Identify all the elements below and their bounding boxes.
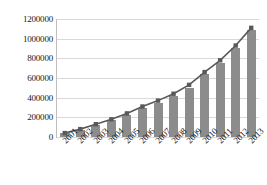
y-axis-tick-label: 400000 [1, 94, 53, 103]
y-axis-tick-label: 200000 [1, 113, 53, 122]
line-marker [125, 111, 129, 115]
line-marker [140, 104, 144, 108]
y-axis-tick-label: 800000 [1, 54, 53, 63]
line-marker [249, 26, 253, 30]
line-marker [171, 92, 175, 96]
trend-line [65, 28, 251, 133]
y-axis-tick-label: 600000 [1, 74, 53, 83]
y-axis-tick-label: 0 [1, 133, 53, 142]
line-marker [233, 43, 237, 47]
line-marker [156, 98, 160, 102]
y-axis-tick-labels: 020000040000060000080000010000001200000 [0, 0, 53, 185]
plot-area [57, 19, 259, 137]
line-marker [218, 58, 222, 62]
line-marker [109, 117, 113, 121]
line-marker [94, 122, 98, 126]
y-axis-tick-label: 1000000 [1, 35, 53, 44]
y-axis-tick-label: 1200000 [1, 15, 53, 24]
line-series [57, 19, 259, 137]
chart-container: 020000040000060000080000010000001200000 … [0, 0, 267, 185]
line-marker [202, 70, 206, 74]
line-marker [187, 83, 191, 87]
x-axis-tick-labels: 2001200220032004200520062007200820092010… [57, 139, 259, 185]
